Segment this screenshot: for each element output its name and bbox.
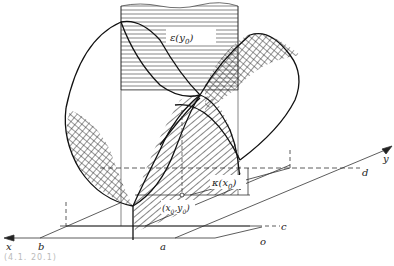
point-b-label: b [38, 241, 44, 252]
point-o-label: o [260, 236, 266, 247]
left-crosshatch-surface [67, 110, 133, 207]
x-axis-label: x [6, 241, 12, 252]
y-axis-label: y [382, 153, 389, 164]
point-c-label: c [281, 221, 287, 232]
surface-diagram: ε(y0) κ(x0) (x0,y0) x y b a o c d [0, 0, 394, 266]
figure-caption: (4.1. 20.1) [4, 253, 57, 262]
point-d-label: d [362, 167, 368, 178]
point-x0-y0 [180, 193, 184, 197]
point-a-label: a [160, 241, 166, 252]
